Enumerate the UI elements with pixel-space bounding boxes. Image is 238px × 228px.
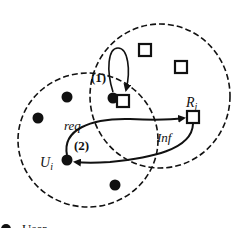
resource-node — [175, 61, 187, 73]
legend-user-label: User ... — [22, 221, 60, 228]
step2-label: (2) — [74, 138, 89, 153]
user-node — [33, 113, 44, 124]
step1-label: (1) — [91, 70, 106, 85]
resource-rj-label: Rj — [185, 95, 198, 112]
user-node — [110, 180, 121, 191]
diagram-canvas: (1) (2) req Inf Rj Ui User ... — [0, 0, 238, 228]
self-loop-arrow — [109, 48, 129, 92]
user-ui-label: Ui — [40, 155, 53, 172]
user-node-ui — [62, 155, 73, 166]
req-label: req — [64, 118, 81, 133]
resource-node — [139, 44, 151, 56]
legend-user-dot — [1, 224, 11, 228]
inf-arrow — [75, 124, 193, 163]
resource-node-rj — [187, 111, 199, 123]
user-node — [62, 92, 73, 103]
inf-label: Inf — [156, 130, 174, 145]
resource-node — [117, 95, 129, 107]
